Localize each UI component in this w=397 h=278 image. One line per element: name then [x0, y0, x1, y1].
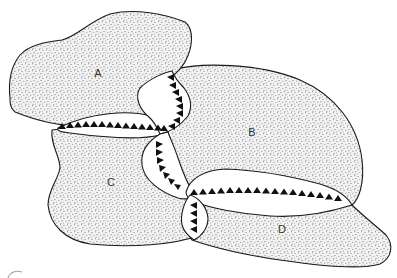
plate-label-d: D — [278, 224, 286, 235]
corner-circle-mark — [8, 271, 22, 278]
plate-label-b: B — [248, 127, 255, 138]
plate-label-a: A — [94, 68, 101, 79]
plate-boundary-diagram — [0, 0, 397, 278]
plate-label-c: C — [107, 177, 115, 188]
